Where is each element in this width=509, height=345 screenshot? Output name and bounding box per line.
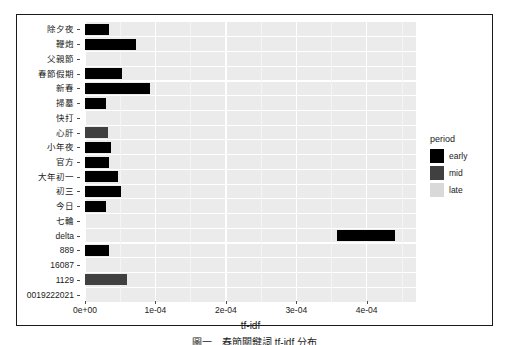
bar-floating: [337, 230, 395, 241]
x-axis-tick-label: 0e+00: [73, 305, 97, 315]
y-axis-tick-label: 大年初一: [38, 170, 74, 184]
gridline-vertical-minor: [120, 22, 121, 302]
y-axis-tick-label: 官方: [56, 155, 74, 169]
y-axis-tick-mark: [77, 295, 80, 296]
x-axis-title: tf-idf: [85, 320, 416, 331]
y-axis-tick-label: 1129: [56, 273, 74, 287]
y-axis-tick-label: 889: [60, 243, 74, 257]
y-axis-tick-mark: [77, 236, 80, 237]
bar: [85, 186, 121, 197]
y-axis-tick-label: 掃墓: [56, 96, 74, 110]
y-axis-tick-label: 除夕夜: [47, 22, 74, 36]
gridline-vertical-major: [366, 22, 367, 302]
legend-label: early: [449, 151, 467, 161]
bar: [85, 171, 118, 182]
x-axis-tick-mark: [155, 301, 156, 304]
legend-item: late: [430, 182, 500, 198]
legend-swatch: [430, 183, 444, 197]
gridline-vertical-minor: [402, 22, 403, 302]
y-axis-tick-label: 父親節: [47, 52, 74, 66]
y-axis-tick-mark: [77, 44, 80, 45]
y-axis-tick-mark: [77, 162, 80, 163]
bar: [85, 201, 106, 212]
y-axis-tick-label: delta: [56, 229, 74, 243]
y-axis-tick-mark: [77, 88, 80, 89]
y-axis-tick-mark: [77, 177, 80, 178]
figure-caption-strip: 圖一 春節關鍵詞 tf-idf 分布: [0, 336, 509, 345]
x-axis-tick-label: 1e-04: [145, 305, 167, 315]
gridline-vertical-minor: [190, 22, 191, 302]
gridline-vertical-major: [296, 22, 297, 302]
y-axis-tick-label: 快打: [56, 111, 74, 125]
y-axis-tick-label: 小年夜: [47, 140, 74, 154]
bar: [85, 68, 122, 79]
y-axis-tick-label: 0019222021: [27, 288, 74, 302]
x-axis-tick-label: 4e-04: [356, 305, 378, 315]
x-axis-tick-mark: [85, 301, 86, 304]
y-axis-tick-mark: [77, 221, 80, 222]
bar: [85, 157, 109, 168]
y-axis-tick-label: 16087: [50, 258, 74, 272]
legend-title: period: [430, 134, 500, 144]
y-axis-tick-mark: [77, 191, 80, 192]
gridline-vertical-major: [225, 22, 226, 302]
gridline-vertical-major: [155, 22, 156, 302]
x-axis-tick-label: 2e-04: [215, 305, 237, 315]
y-axis-tick-mark: [77, 280, 80, 281]
bar: [85, 24, 109, 35]
gridline-vertical-minor: [331, 22, 332, 302]
y-axis-tick-mark: [77, 59, 80, 60]
legend: period earlymidlate: [430, 134, 500, 199]
plot-panel: [85, 22, 416, 302]
bar: [85, 274, 127, 285]
legend-item: mid: [430, 165, 500, 181]
y-axis-tick-label: 新春: [56, 81, 74, 95]
y-axis-tick-mark: [77, 133, 80, 134]
y-axis-tick-label: 今日: [56, 199, 74, 213]
bar: [85, 39, 136, 50]
legend-item: early: [430, 148, 500, 164]
figure-caption: 圖一 春節關鍵詞 tf-idf 分布: [0, 336, 509, 345]
bar: [85, 98, 106, 109]
legend-items: earlymidlate: [430, 148, 500, 198]
y-axis-tick-label: 初三: [56, 184, 74, 198]
bar: [85, 245, 109, 256]
y-axis-tick-label: 春節假期: [38, 67, 74, 81]
y-axis-tick-mark: [77, 29, 80, 30]
y-axis-tick-mark: [77, 103, 80, 104]
y-axis-tick-mark: [77, 147, 80, 148]
y-axis: 除夕夜 鞭炮 父親節 春節假期 新春 掃墓 快打 心肝 小年夜 官方 大年初一 …: [0, 22, 81, 302]
y-axis-tick-label: 心肝: [56, 126, 74, 140]
y-axis-tick-mark: [77, 265, 80, 266]
legend-label: late: [449, 185, 463, 195]
x-axis-tick-mark: [367, 301, 368, 304]
y-axis-tick-label: 七輪: [56, 214, 74, 228]
x-axis-tick-mark: [296, 301, 297, 304]
y-axis-tick-mark: [77, 250, 80, 251]
y-axis-tick-mark: [77, 118, 80, 119]
bar: [85, 127, 108, 138]
figure-container: 除夕夜 鞭炮 父親節 春節假期 新春 掃墓 快打 心肝 小年夜 官方 大年初一 …: [0, 0, 509, 345]
bar: [85, 83, 150, 94]
x-axis-tick-mark: [226, 301, 227, 304]
x-axis-tick-label: 3e-04: [285, 305, 307, 315]
bar: [85, 142, 111, 153]
legend-swatch: [430, 149, 444, 163]
gridline-vertical-minor: [261, 22, 262, 302]
y-axis-tick-label: 鞭炮: [56, 37, 74, 51]
y-axis-tick-mark: [77, 206, 80, 207]
legend-swatch: [430, 166, 444, 180]
y-axis-tick-mark: [77, 74, 80, 75]
legend-label: mid: [449, 168, 463, 178]
x-axis: 0e+001e-042e-043e-044e-04: [85, 305, 416, 319]
